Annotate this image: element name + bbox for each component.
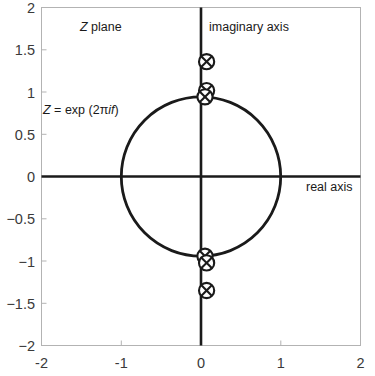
- data-marker-6[interactable]: [199, 283, 214, 298]
- x-tick-label-0: 0: [197, 355, 205, 371]
- annotation-z-plane: Z plane: [79, 20, 122, 34]
- x-tick-label-1: 1: [277, 355, 285, 371]
- annotation-z-plane-rest: plane: [88, 20, 122, 34]
- data-marker-3[interactable]: [197, 89, 212, 104]
- data-marker-5[interactable]: [199, 255, 214, 270]
- y-tick-label-1: 1: [27, 85, 35, 101]
- equation-eq-part: = exp (2: [51, 103, 100, 117]
- z-plane-plot: 2 1.5 1 0.5 0 −0.5 −1 −1.5 −2 -2 -1 0 1 …: [0, 0, 375, 376]
- y-tick-label-neg0p5: −0.5: [6, 211, 35, 227]
- x-tick-label-neg1: -1: [115, 355, 128, 371]
- y-tick-label-neg2: −2: [18, 338, 35, 354]
- x-tick-label-neg2: -2: [35, 355, 48, 371]
- annotation-z-plane-symbol: Z: [79, 20, 88, 34]
- annotation-real-axis: real axis: [306, 180, 353, 194]
- y-tick-label-0: 0: [27, 169, 35, 185]
- y-tick-label-2: 2: [27, 0, 35, 16]
- annotation-imaginary-axis: imaginary axis: [209, 20, 289, 34]
- y-tick-label-1p5: 1.5: [15, 42, 35, 58]
- y-tick-label-neg1: −1: [18, 254, 35, 270]
- data-marker-1[interactable]: [199, 54, 214, 69]
- annotation-equation: Z = exp (2πif): [42, 103, 119, 117]
- y-tick-label-0p5: 0.5: [15, 127, 35, 143]
- x-tick-label-2: 2: [356, 355, 364, 371]
- equation-close-paren: ): [115, 103, 119, 117]
- figure-container: 2 1.5 1 0.5 0 −0.5 −1 −1.5 −2 -2 -1 0 1 …: [0, 0, 375, 376]
- equation-z-symbol: Z: [42, 103, 51, 117]
- y-tick-label-neg1p5: −1.5: [6, 296, 35, 312]
